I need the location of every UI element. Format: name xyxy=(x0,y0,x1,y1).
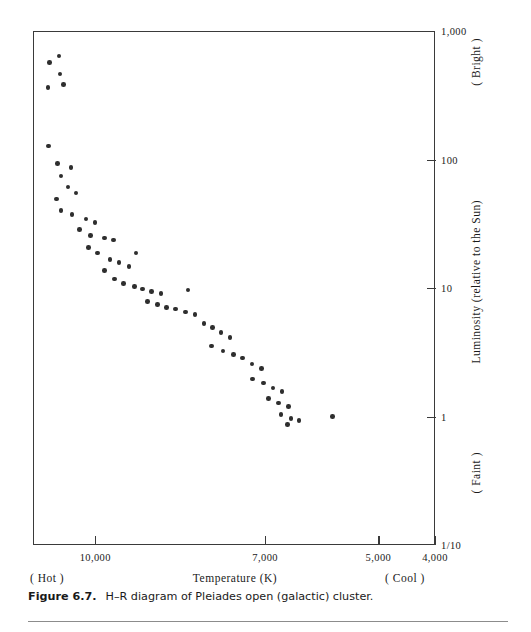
y-axis-tick-label: 10 xyxy=(441,283,452,294)
data-point xyxy=(193,312,198,317)
data-point xyxy=(134,251,139,256)
faint-annotation: ( Faint ) xyxy=(470,452,482,494)
x-axis-tick xyxy=(265,536,266,545)
data-point xyxy=(61,82,66,87)
caption-divider-rule xyxy=(28,621,508,622)
y-axis-tick-label: 1 xyxy=(441,411,447,422)
data-point xyxy=(219,330,224,335)
figure-caption-text: H–R diagram of Pleiades open (galactic) … xyxy=(106,590,374,603)
data-point xyxy=(59,208,64,213)
y-axis-tick xyxy=(427,160,436,161)
data-point xyxy=(121,281,126,286)
data-point xyxy=(186,288,191,293)
y-axis-tick-label: 100 xyxy=(441,154,458,165)
data-point xyxy=(95,251,100,256)
data-point xyxy=(231,352,236,357)
x-axis-tick-label: 10,000 xyxy=(80,552,111,563)
data-point xyxy=(149,289,154,294)
data-point xyxy=(259,366,264,371)
data-point xyxy=(112,277,117,282)
data-point xyxy=(84,217,89,222)
data-point xyxy=(55,161,60,166)
cool-annotation: ( Cool ) xyxy=(385,572,425,584)
data-point xyxy=(279,412,284,417)
plot-frame xyxy=(33,31,435,545)
y-axis-tick xyxy=(427,288,436,289)
y-axis-tick xyxy=(427,417,436,418)
data-point xyxy=(286,404,291,409)
data-point xyxy=(54,197,59,202)
data-point xyxy=(117,260,122,265)
x-axis-tick-label: 4,000 xyxy=(422,552,448,563)
figure-caption: Figure 6.7.H–R diagram of Pleiades open … xyxy=(28,590,373,603)
data-point xyxy=(70,212,75,217)
data-point xyxy=(59,174,64,179)
data-point xyxy=(140,287,145,292)
data-point xyxy=(221,349,226,354)
data-point xyxy=(183,310,188,315)
data-point xyxy=(209,344,214,349)
x-axis-tick xyxy=(95,536,96,545)
data-point xyxy=(271,386,276,391)
data-point xyxy=(276,401,281,406)
data-point xyxy=(202,321,207,326)
figure-container: 10,0007,0005,0004,000 1,0001001011/10 Te… xyxy=(0,0,531,632)
data-point xyxy=(58,72,63,77)
x-axis-tick xyxy=(435,536,436,545)
y-axis-tick-label: 1,000 xyxy=(441,26,467,37)
data-point xyxy=(74,191,79,196)
data-point xyxy=(250,377,255,382)
data-point xyxy=(159,291,164,296)
data-point xyxy=(46,85,51,90)
data-point xyxy=(132,284,137,289)
bright-annotation: ( Bright ) xyxy=(470,38,482,86)
y-axis-title: Luminosity (relative to the Sun) xyxy=(470,200,482,364)
data-point xyxy=(77,227,82,232)
data-point xyxy=(261,381,266,386)
data-point xyxy=(285,422,290,427)
data-point xyxy=(250,362,255,367)
data-point xyxy=(127,264,132,269)
data-point xyxy=(210,325,215,330)
data-point xyxy=(108,257,113,262)
data-point xyxy=(330,414,335,419)
hot-annotation: ( Hot ) xyxy=(30,572,64,584)
scatter-plot-area xyxy=(34,32,434,544)
data-point xyxy=(88,233,93,238)
data-point xyxy=(145,299,150,304)
data-point xyxy=(86,245,91,250)
data-point xyxy=(155,302,160,307)
data-point xyxy=(102,236,107,241)
data-point xyxy=(93,220,98,225)
data-point xyxy=(228,335,233,340)
data-point xyxy=(66,185,71,190)
figure-number: Figure 6.7. xyxy=(28,590,97,603)
data-point xyxy=(173,307,178,312)
data-point xyxy=(111,238,116,243)
data-point xyxy=(164,305,169,310)
data-point xyxy=(57,54,62,59)
data-point xyxy=(240,356,245,361)
data-point xyxy=(47,60,52,65)
data-point xyxy=(69,165,74,170)
data-point xyxy=(46,144,51,149)
data-point xyxy=(297,418,302,423)
data-point xyxy=(280,389,285,394)
data-point xyxy=(289,416,294,421)
data-point xyxy=(266,396,271,401)
data-point xyxy=(102,268,107,273)
x-axis-tick-label: 7,000 xyxy=(252,552,278,563)
x-axis-tick-label: 5,000 xyxy=(366,552,392,563)
y-axis-tick-label: 1/10 xyxy=(441,540,461,551)
x-axis-tick xyxy=(378,536,379,545)
